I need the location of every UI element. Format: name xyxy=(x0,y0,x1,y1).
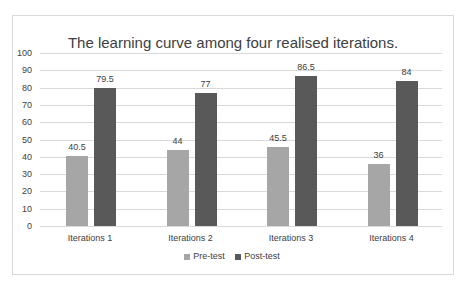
data-label: 79.5 xyxy=(85,74,125,84)
bar-post-test xyxy=(195,93,217,226)
data-label: 40.5 xyxy=(57,142,97,152)
data-label: 36 xyxy=(359,150,399,160)
y-tick-label: 20 xyxy=(6,186,32,196)
data-label: 86.5 xyxy=(286,62,326,72)
legend-swatch-post-test xyxy=(235,254,241,260)
data-label: 44 xyxy=(158,136,198,146)
data-label: 77 xyxy=(186,79,226,89)
bar-pre-test xyxy=(368,164,390,226)
bar-post-test xyxy=(295,76,317,226)
bar-pre-test xyxy=(66,156,88,226)
legend-swatch-pre-test xyxy=(184,254,190,260)
y-tick-label: 60 xyxy=(6,117,32,127)
x-tick-label: Iterations 4 xyxy=(342,233,442,243)
y-tick-label: 50 xyxy=(6,135,32,145)
y-tick-label: 100 xyxy=(6,48,32,58)
gridline xyxy=(40,70,442,71)
y-tick-label: 0 xyxy=(6,221,32,231)
y-tick-label: 40 xyxy=(6,152,32,162)
gridline xyxy=(40,53,442,54)
bar-pre-test xyxy=(267,147,289,226)
legend-item-pre-test: Pre-test xyxy=(184,251,225,261)
bar-post-test xyxy=(94,88,116,226)
y-tick-label: 90 xyxy=(6,65,32,75)
x-tick-label: Iterations 1 xyxy=(40,233,140,243)
chart-legend: Pre-test Post-test xyxy=(0,251,464,261)
data-label: 45.5 xyxy=(258,133,298,143)
x-tick-label: Iterations 2 xyxy=(141,233,241,243)
bar-pre-test xyxy=(167,150,189,226)
y-tick-label: 80 xyxy=(6,83,32,93)
chart-title: The learning curve among four realised i… xyxy=(13,34,453,51)
y-tick-label: 70 xyxy=(6,100,32,110)
data-label: 84 xyxy=(387,67,427,77)
bar-post-test xyxy=(396,81,418,226)
y-tick-label: 10 xyxy=(6,204,32,214)
y-tick-label: 30 xyxy=(6,169,32,179)
plot-area: 010203040506070809010040.579.5Iterations… xyxy=(40,53,442,226)
gridline xyxy=(40,226,442,227)
x-tick-label: Iterations 3 xyxy=(241,233,341,243)
legend-item-post-test: Post-test xyxy=(235,251,280,261)
